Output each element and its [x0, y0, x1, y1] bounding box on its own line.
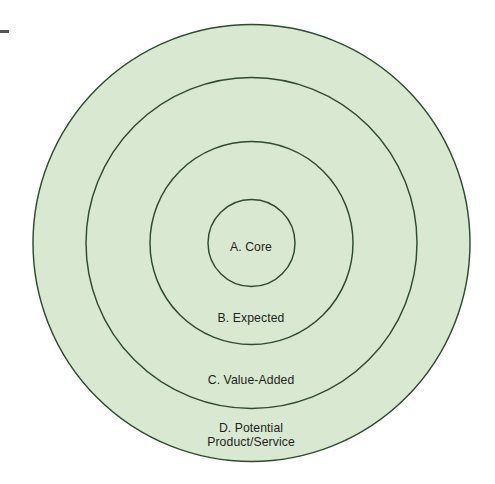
ring-circle-a-core [208, 200, 295, 287]
concentric-circles-diagram: A. Core B. Expected C. Value-Added D. Po… [0, 0, 495, 484]
diagram-canvas [0, 0, 495, 484]
scan-corner-mark [0, 30, 9, 33]
